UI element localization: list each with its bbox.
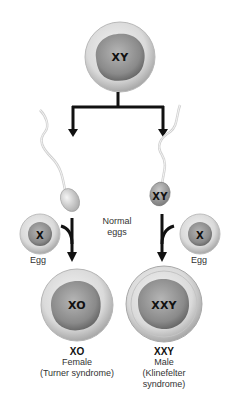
parent-cell-label: XY: [112, 51, 129, 64]
xo-sex: Female: [40, 357, 114, 368]
right-egg-caption: Egg: [191, 255, 207, 266]
normal-sperm: [40, 110, 83, 215]
fertilization-arrow-left: [61, 218, 77, 262]
normal-eggs-label: Normal eggs: [102, 216, 131, 238]
xo-title: XO: [40, 346, 114, 357]
xo-condition: (Turner syndrome): [40, 368, 114, 379]
left-egg-caption: Egg: [30, 255, 46, 266]
xxy-condition-line1: (Klinefelter: [142, 368, 185, 379]
normal-eggs-line1: Normal: [102, 216, 131, 227]
right-egg-label: X: [196, 230, 204, 241]
xxy-caption: XXY Male (Klinefelter syndrome): [142, 346, 185, 390]
xxy-condition-line2: syndrome): [142, 379, 185, 390]
xy-sperm-label: XY: [152, 191, 167, 202]
xo-caption: XO Female (Turner syndrome): [40, 346, 114, 379]
xo-cell-label: XO: [68, 299, 86, 312]
xxy-title: XXY: [142, 346, 185, 357]
xxy-cell-label: XXY: [151, 299, 177, 312]
fertilization-arrow-right: [157, 214, 174, 262]
arrow-head-left: [68, 129, 78, 137]
split-connector: [72, 92, 164, 131]
normal-eggs-line2: eggs: [102, 227, 131, 238]
xxy-sex: Male: [142, 357, 185, 368]
left-egg-label: X: [36, 230, 44, 241]
